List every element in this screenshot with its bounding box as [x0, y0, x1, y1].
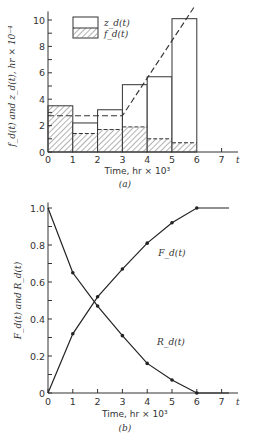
b-Rd-point [145, 362, 149, 366]
a-x-tick-label: 5 [169, 154, 175, 165]
b-Rd-annotation: R_d(t) [156, 337, 185, 348]
b-series-Rd-line [48, 208, 229, 393]
a-bar-f [73, 134, 97, 152]
a-bar-f [173, 143, 197, 152]
b-Fd-point [195, 206, 199, 210]
legend: z_d(t) f_d(t) [73, 17, 130, 40]
a-x-axis-title: Time, hr × 10³ [104, 166, 171, 176]
a-y-tick-label: 4 [39, 94, 45, 105]
b-Rd-point [121, 334, 125, 338]
b-y-tick-label: 0.2 [30, 351, 45, 362]
b-y-tick-label: 0.6 [30, 277, 45, 288]
legend-z-label: z_d(t) [103, 18, 130, 29]
b-x-tick-label: 7 [219, 396, 225, 407]
a-bar-f [123, 127, 147, 152]
b-Fd-point [71, 332, 75, 336]
b-y-tick-label: 1.0 [30, 203, 45, 214]
a-y-tick-label: 10 [33, 15, 45, 26]
a-x-tick-label: 6 [194, 154, 200, 165]
a-x-tick-label: 3 [119, 154, 125, 165]
b-x-tick-label: 4 [144, 396, 150, 407]
b-y-axis-title: F_d(t) and R_d(t) [13, 261, 24, 340]
b-y-tick-label: 0.4 [30, 314, 45, 325]
b-Fd-point [170, 221, 174, 225]
a-bar-f [49, 106, 73, 152]
b-Fd-point [121, 267, 125, 271]
a-x-tick-label: 4 [144, 154, 150, 165]
legend-f-swatch [74, 28, 98, 38]
b-Fd-point [145, 241, 149, 245]
b-Rd-point [195, 391, 199, 395]
b-x-tick-label: 5 [169, 396, 175, 407]
b-x-tick-label: 0 [45, 396, 51, 407]
b-Rd-point [71, 271, 75, 275]
chart-b: 00.20.40.60.81.0 01234567 F_d(t) R_d(t) … [13, 202, 240, 433]
b-x-end-label: t [236, 397, 240, 407]
a-y-axis-title: f_d(t) and z_d(t), hr × 10⁻⁴ [7, 25, 18, 148]
a-y-tick-label: 8 [39, 41, 45, 52]
a-x-tick-label: 1 [70, 154, 76, 165]
b-series-Fd-line [48, 208, 229, 393]
a-panel-label: (a) [119, 179, 132, 189]
a-y-tick-label: 2 [39, 120, 45, 131]
b-x-tick-label: 1 [70, 396, 76, 407]
a-bar-f [148, 139, 172, 152]
b-panel-label: (b) [118, 423, 131, 433]
chart-a: 0246810 01234567 t Time, hr × 10³ (a) f_… [7, 7, 240, 189]
a-y-tick-label: 6 [39, 67, 45, 78]
a-x-tick-label: 0 [45, 154, 51, 165]
b-x-tick-label: 2 [95, 396, 101, 407]
b-Fd-point [96, 295, 100, 299]
b-Rd-point [96, 304, 100, 308]
figure: 0246810 01234567 t Time, hr × 10³ (a) f_… [0, 0, 260, 447]
b-x-axis-title: Time, hr × 10³ [101, 409, 168, 419]
b-Fd-annotation: F_d(t) [157, 248, 186, 259]
b-Rd-point [170, 378, 174, 382]
a-bar-z [172, 19, 197, 152]
a-x-end-label: t [236, 155, 240, 165]
legend-f-label: f_d(t) [103, 29, 129, 40]
b-x-tick-label: 3 [119, 396, 125, 407]
b-x-tick-label: 6 [194, 396, 200, 407]
b-y-tick-label: 0.8 [30, 240, 45, 251]
a-bar-f [98, 130, 122, 152]
a-x-tick-label: 7 [219, 154, 225, 165]
a-x-tick-label: 2 [95, 154, 101, 165]
